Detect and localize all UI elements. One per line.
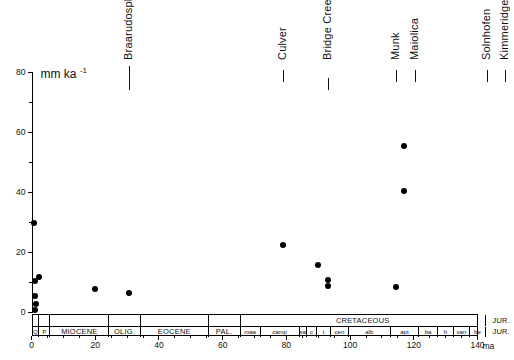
timescale-cell <box>208 315 240 326</box>
x-tick-minor-5 <box>47 336 48 339</box>
y-tick-label-40: 40 <box>0 188 26 197</box>
data-point <box>36 274 42 280</box>
timescale-cell <box>108 315 140 326</box>
timescale-cell: c <box>306 327 316 337</box>
annotation-label-culver: Culver <box>277 2 288 60</box>
x-tick-minor-25 <box>111 336 112 339</box>
y-tick-label-80: 80 <box>0 68 26 77</box>
annotation-tick-culver <box>283 70 284 82</box>
y-tick-major-20 <box>28 252 32 253</box>
x-tick-minor-15 <box>79 336 80 339</box>
x-tick-label-20: 20 <box>75 341 115 350</box>
x-tick-minor-90 <box>318 336 319 339</box>
data-point <box>325 277 331 283</box>
timescale-cell: maa <box>240 327 260 337</box>
y-tick-label-60: 60 <box>0 128 26 137</box>
data-point <box>126 290 132 296</box>
x-tick-label-60: 60 <box>203 341 243 350</box>
data-point <box>401 143 407 149</box>
data-point <box>393 284 399 290</box>
y-tick-major-40 <box>28 192 32 193</box>
annotation-tick-solnhofen <box>487 70 488 82</box>
x-tick-major-0 <box>31 336 32 340</box>
stratigraphic-timescale: CRETACEOUSJUR.QPMIOCENEOLIG.EOCENEPAL.ma… <box>32 314 478 336</box>
data-point <box>325 283 331 289</box>
x-tick-major-60 <box>222 336 223 340</box>
x-tick-label-0: 0 <box>12 341 52 350</box>
y-axis-unit-exponent: -1 <box>80 66 87 75</box>
data-point <box>401 188 407 194</box>
timescale-cell: PAL. <box>208 327 240 337</box>
data-point <box>31 220 37 226</box>
annotation-tick-bridge-creek <box>328 78 329 90</box>
timescale-cell: camp <box>260 327 299 337</box>
annotation-tick-maiolica <box>415 70 416 82</box>
x-tick-label-100: 100 <box>330 341 370 350</box>
timescale-cell <box>49 315 108 326</box>
x-tick-minor-125 <box>429 336 430 339</box>
timescale-cell: JUR. <box>485 315 514 326</box>
x-tick-label-120: 120 <box>394 341 434 350</box>
x-tick-label-80: 80 <box>266 341 306 350</box>
timescale-cell: OLIG. <box>108 327 140 337</box>
x-tick-minor-10 <box>63 336 64 339</box>
timescale-cell: ba <box>418 327 437 337</box>
timescale-cell <box>38 315 49 326</box>
x-tick-major-40 <box>158 336 159 340</box>
timescale-cell: JUR. <box>485 327 514 337</box>
annotation-label-braarudosphaera: Braarudosphaera <box>123 2 134 60</box>
timescale-cell: CRETACEOUS <box>240 315 485 326</box>
x-tick-major-100 <box>350 336 351 340</box>
y-axis-unit-text: mm ka <box>41 67 80 81</box>
y-axis-unit-label: mm ka -1 <box>41 66 87 81</box>
y-tick-label-0: 0 <box>0 308 26 317</box>
timescale-cell <box>140 315 208 326</box>
x-tick-minor-135 <box>461 336 462 339</box>
annotation-tick-kimmeridge <box>505 70 506 82</box>
x-tick-minor-50 <box>190 336 191 339</box>
x-tick-minor-95 <box>334 336 335 339</box>
x-tick-minor-75 <box>270 336 271 339</box>
y-tick-minor-10 <box>29 282 32 283</box>
y-tick-major-80 <box>28 72 32 73</box>
y-axis <box>32 72 33 313</box>
y-tick-label-20: 20 <box>0 248 26 257</box>
x-tick-minor-55 <box>206 336 207 339</box>
x-tick-label-40: 40 <box>139 341 179 350</box>
data-point <box>92 286 98 292</box>
annotation-label-kimmeridge: Kimmeridge <box>499 2 510 60</box>
x-tick-minor-65 <box>238 336 239 339</box>
x-tick-minor-115 <box>397 336 398 339</box>
x-tick-minor-85 <box>302 336 303 339</box>
x-tick-minor-35 <box>143 336 144 339</box>
y-tick-minor-70 <box>29 102 32 103</box>
x-tick-minor-110 <box>381 336 382 339</box>
data-point <box>280 242 286 248</box>
annotation-label-munk: Munk <box>390 2 401 60</box>
timescale-row-period: CRETACEOUSJUR. <box>33 315 477 326</box>
x-tick-major-120 <box>413 336 414 340</box>
y-tick-major-60 <box>28 132 32 133</box>
annotation-label-maiolica: Maiolica <box>409 2 420 60</box>
x-tick-minor-45 <box>174 336 175 339</box>
data-point <box>33 301 39 307</box>
y-tick-minor-50 <box>29 162 32 163</box>
data-point <box>32 293 38 299</box>
annotation-label-bridge-creek: Bridge Creek <box>322 2 333 60</box>
annotation-tick-braarudosphaera <box>129 66 130 90</box>
x-tick-major-20 <box>95 336 96 340</box>
x-tick-minor-105 <box>366 336 367 339</box>
x-tick-minor-70 <box>254 336 255 339</box>
x-tick-minor-30 <box>127 336 128 339</box>
annotation-label-solnhofen: Solnhofen <box>481 2 492 60</box>
x-tick-minor-130 <box>445 336 446 339</box>
data-point <box>315 262 321 268</box>
timescale-cell: alb <box>348 327 390 337</box>
x-tick-major-80 <box>286 336 287 340</box>
data-point <box>32 307 38 313</box>
annotation-tick-munk <box>396 70 397 82</box>
x-axis-unit-label: ma <box>483 341 495 351</box>
x-tick-major-140 <box>477 336 478 340</box>
